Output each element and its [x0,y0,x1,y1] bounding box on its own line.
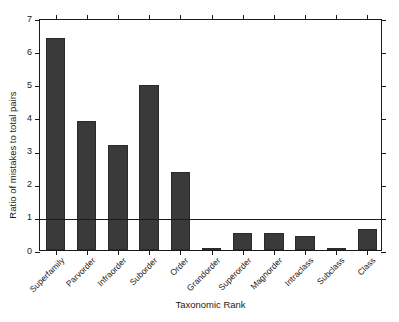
y-axis-tick [35,153,40,154]
plot-area [40,20,381,250]
y-axis-tick-right [381,186,386,187]
reference-line [40,219,381,220]
y-axis-tick-label: 6 [12,48,32,57]
x-axis-tick-top [212,15,213,20]
y-axis-tick-right [381,153,386,154]
x-axis-tick [56,250,57,255]
y-axis-tick-label: 0 [12,247,32,256]
x-axis-tick-top [305,15,306,20]
x-axis-tick [274,250,275,255]
y-axis-tick [35,252,40,253]
x-axis-tick [180,250,181,255]
x-axis-tick [305,250,306,255]
y-axis-tick-label: 7 [12,15,32,24]
y-axis-tick-label: 3 [12,147,32,156]
y-axis-tick-right [381,219,386,220]
x-axis-tick [212,250,213,255]
x-axis-tick-top [274,15,275,20]
x-axis-tick-top [180,15,181,20]
y-axis-tick-right [381,20,386,21]
y-axis-tick [35,20,40,21]
bar [264,233,283,250]
bar [77,121,96,250]
y-axis-tick-label: 5 [12,81,32,90]
plot-frame [39,19,382,251]
x-axis-tick-top [336,15,337,20]
x-axis-tick [367,250,368,255]
bar [139,85,158,250]
bar-chart-figure: Ratio of mistakes to total pairs Taxonom… [0,0,399,322]
x-axis-tick-top [56,15,57,20]
y-axis-tick [35,186,40,187]
x-axis-tick [336,250,337,255]
x-axis-tick-top [367,15,368,20]
y-axis-tick-right [381,53,386,54]
bar [358,229,377,250]
bar [295,236,314,250]
y-axis-tick-right [381,252,386,253]
bar [108,145,127,250]
x-axis-tick [149,250,150,255]
x-axis-tick-top [87,15,88,20]
x-axis-tick [243,250,244,255]
bar [233,233,252,250]
x-axis-tick [87,250,88,255]
y-axis-tick-label: 4 [12,114,32,123]
bar [171,172,190,250]
y-axis-tick-right [381,86,386,87]
y-axis-tick [35,86,40,87]
y-axis-tick [35,119,40,120]
y-axis-tick-label: 2 [12,180,32,189]
y-axis-tick-label: 1 [12,213,32,222]
x-axis-tick [118,250,119,255]
y-axis-tick-right [381,119,386,120]
x-axis-tick-top [149,15,150,20]
x-axis-tick-top [243,15,244,20]
x-axis-tick-top [118,15,119,20]
y-axis-tick [35,53,40,54]
